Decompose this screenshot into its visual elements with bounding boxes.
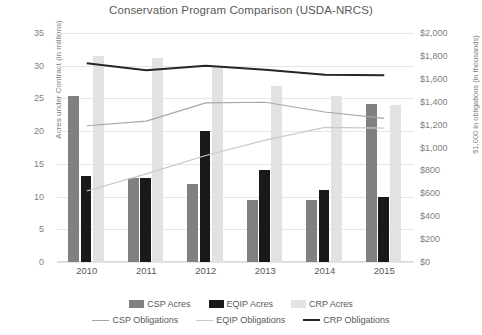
legend-label: CSP Acres xyxy=(147,299,190,309)
legend-item[interactable]: CSP Acres xyxy=(129,299,190,309)
legend-item[interactable]: CRP Obligations xyxy=(303,315,389,325)
x-tick-label: 2011 xyxy=(136,265,156,276)
y-tick-label-left: 35 xyxy=(34,28,44,38)
legend-row-bars: CSP AcresEQIP AcresCRP Acres xyxy=(0,297,482,311)
legend-line-icon xyxy=(303,319,320,321)
legend-label: EQIP Acres xyxy=(227,299,273,309)
y-tick-label-right: $1,400 xyxy=(420,97,448,107)
x-tick-label: 2013 xyxy=(255,265,276,276)
y-axis-labels-left: 05101520253035 xyxy=(0,33,50,262)
chart-title: Conservation Program Comparison (USDA-NR… xyxy=(0,4,482,16)
legend-swatch-icon xyxy=(129,300,144,308)
y-tick-label-right: $1,200 xyxy=(420,120,448,130)
legend-item[interactable]: EQIP Acres xyxy=(209,299,273,309)
y-tick-label-left: 10 xyxy=(34,192,44,202)
line-series xyxy=(87,127,385,191)
chart-container: Conservation Program Comparison (USDA-NR… xyxy=(0,0,482,335)
legend-swatch-icon xyxy=(291,300,306,308)
line-layer xyxy=(57,33,414,262)
x-tick-label: 2014 xyxy=(314,265,335,276)
x-axis-labels: 201020112012201320142015 xyxy=(57,265,414,281)
gridline xyxy=(57,262,414,263)
x-tick-label: 2012 xyxy=(195,265,216,276)
y-tick-label-right: $200 xyxy=(420,234,440,244)
legend-line-icon xyxy=(92,320,109,321)
legend-item[interactable]: CSP Obligations xyxy=(92,315,178,325)
legend-label: CRP Acres xyxy=(309,299,353,309)
y-tick-label-left: 20 xyxy=(34,126,44,136)
y-tick-label-right: $600 xyxy=(420,188,440,198)
legend-label: CRP Obligations xyxy=(323,315,389,325)
legend-item[interactable]: EQIP Obligations xyxy=(196,315,285,325)
x-tick-label: 2015 xyxy=(374,265,395,276)
plot-area xyxy=(57,33,414,262)
legend-item[interactable]: CRP Acres xyxy=(291,299,353,309)
legend-line-icon xyxy=(196,320,213,321)
chart-legend: CSP AcresEQIP AcresCRP Acres CSP Obligat… xyxy=(0,297,482,327)
y-tick-label-right: $0 xyxy=(420,257,430,267)
y-tick-label-left: 5 xyxy=(39,224,44,234)
y-tick-label-right: $800 xyxy=(420,165,440,175)
y-tick-label-left: 15 xyxy=(34,159,44,169)
y-tick-label-right: $1,600 xyxy=(420,74,448,84)
y-tick-label-right: $1,800 xyxy=(420,51,448,61)
y-tick-label-left: 0 xyxy=(39,257,44,267)
y-tick-label-left: 25 xyxy=(34,93,44,103)
line-series xyxy=(87,63,385,75)
y-tick-label-right: $400 xyxy=(420,211,440,221)
y-tick-label-left: 30 xyxy=(34,61,44,71)
x-tick-label: 2010 xyxy=(76,265,97,276)
legend-swatch-icon xyxy=(209,300,224,308)
legend-row-lines: CSP ObligationsEQIP ObligationsCRP Oblig… xyxy=(0,313,482,327)
legend-label: CSP Obligations xyxy=(112,315,178,325)
y-tick-label-right: $1,000 xyxy=(420,143,448,153)
legend-label: EQIP Obligations xyxy=(216,315,285,325)
y-axis-labels-right: $0$200$400$600$800$1,000$1,200$1,400$1,6… xyxy=(418,33,480,262)
y-tick-label-right: $2,000 xyxy=(420,28,448,38)
line-series xyxy=(87,102,385,125)
